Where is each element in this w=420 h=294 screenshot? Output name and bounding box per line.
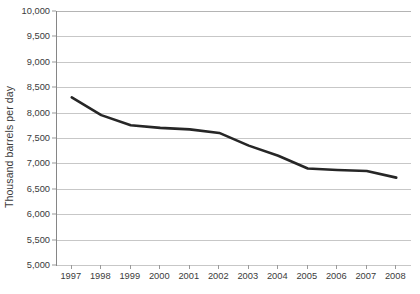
- series-line-thousand-barrels-per-day: [57, 11, 411, 265]
- x-axis-tick-label: 2008: [385, 271, 406, 281]
- x-axis-tick-label: 2000: [149, 271, 170, 281]
- x-axis-tick-mark: [71, 265, 72, 269]
- y-axis-tick-label: 6,000: [27, 209, 50, 219]
- x-axis-tick-label: 2001: [178, 271, 199, 281]
- x-axis-tick-label: 1998: [90, 271, 111, 281]
- y-axis-tick-label: 7,000: [27, 158, 50, 168]
- x-axis-tick-label: 2003: [237, 271, 258, 281]
- y-axis-tick-label: 5,500: [27, 235, 50, 245]
- y-axis-tick-label: 9,500: [27, 31, 50, 41]
- y-axis-tick-label: 7,500: [27, 133, 50, 143]
- y-axis-tick-label: 10,000: [22, 6, 50, 16]
- x-axis-tick-labels: 1997199819992000200120022003200420052006…: [56, 271, 410, 287]
- y-axis-title: Thousand barrels per day: [0, 0, 18, 294]
- x-axis-tick-mark: [307, 265, 308, 269]
- x-axis-tick-mark: [366, 265, 367, 269]
- x-axis-tick-mark: [218, 265, 219, 269]
- x-axis-ticks: [56, 265, 410, 270]
- x-axis-tick-mark: [336, 265, 337, 269]
- x-axis-tick-mark: [130, 265, 131, 269]
- y-axis-tick-label: 5,000: [27, 260, 50, 270]
- x-axis-tick-mark: [277, 265, 278, 269]
- y-axis-tick-label: 8,000: [27, 108, 50, 118]
- x-axis-tick-mark: [395, 265, 396, 269]
- x-axis-tick-mark: [159, 265, 160, 269]
- y-axis-tick-label: 8,500: [27, 82, 50, 92]
- x-axis-tick-label: 2005: [296, 271, 317, 281]
- y-axis-tick-label: 6,500: [27, 184, 50, 194]
- plot-area: [56, 11, 411, 266]
- line-chart: Thousand barrels per day 10,0009,5009,00…: [0, 0, 420, 294]
- x-axis-tick-mark: [248, 265, 249, 269]
- x-axis-tick-mark: [189, 265, 190, 269]
- x-axis-tick-label: 1999: [119, 271, 140, 281]
- x-axis-tick-label: 2004: [267, 271, 288, 281]
- x-axis-tick-label: 1997: [60, 271, 81, 281]
- x-axis-tick-label: 2006: [326, 271, 347, 281]
- y-axis-tick-label: 9,000: [27, 57, 50, 67]
- x-axis-tick-label: 2007: [355, 271, 376, 281]
- series-polyline: [72, 97, 397, 177]
- x-axis-tick-label: 2002: [208, 271, 229, 281]
- y-axis-title-label: Thousand barrels per day: [3, 86, 15, 208]
- y-axis-tick-labels: 10,0009,5009,0008,5008,0007,5007,0006,50…: [18, 0, 56, 294]
- x-axis-tick-mark: [100, 265, 101, 269]
